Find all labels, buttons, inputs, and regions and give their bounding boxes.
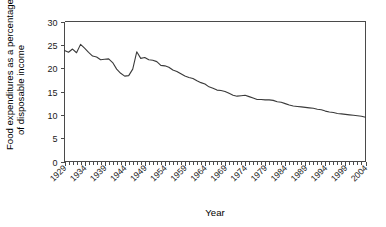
y-tick-label-25: 25 — [47, 41, 57, 51]
y-tick-label-10: 10 — [47, 111, 57, 121]
y-tick-label-15: 15 — [47, 88, 57, 98]
y-tick-label-30: 30 — [47, 18, 57, 28]
chart-figure: 051015202530 192919341939194419491954195… — [0, 0, 386, 227]
y-axis-title-line1: Food expenditures as a percentage — [4, 0, 15, 150]
y-axis-title-line2: of disposable income — [15, 45, 26, 135]
y-tick-label-20: 20 — [47, 64, 57, 74]
y-tick-label-5: 5 — [52, 134, 57, 144]
x-axis-title: Year — [205, 207, 225, 218]
chart-background — [0, 0, 386, 227]
food-expenditure-line-chart: 051015202530 192919341939194419491954195… — [0, 0, 386, 227]
